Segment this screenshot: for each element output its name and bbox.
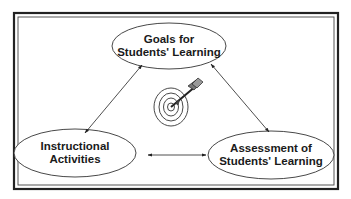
goals-label: Goals for Students' Learning: [112, 33, 226, 59]
goals-label-line2: Students' Learning: [112, 46, 226, 59]
assessment-label-line1: Assessment of: [208, 142, 334, 155]
assessment-label-line2: Students' Learning: [208, 155, 334, 168]
goals-assessment-arrow: [211, 64, 269, 132]
goals-label-line1: Goals for: [112, 33, 226, 46]
instruction-label: Instructional Activities: [14, 140, 136, 166]
goals-instruction-arrow: [85, 65, 142, 133]
target-with-arrow-icon: [154, 78, 203, 126]
assessment-label: Assessment of Students' Learning: [208, 142, 334, 168]
diagram-canvas: [0, 0, 351, 199]
instruction-label-line1: Instructional: [14, 140, 136, 153]
instruction-label-line2: Activities: [14, 153, 136, 166]
